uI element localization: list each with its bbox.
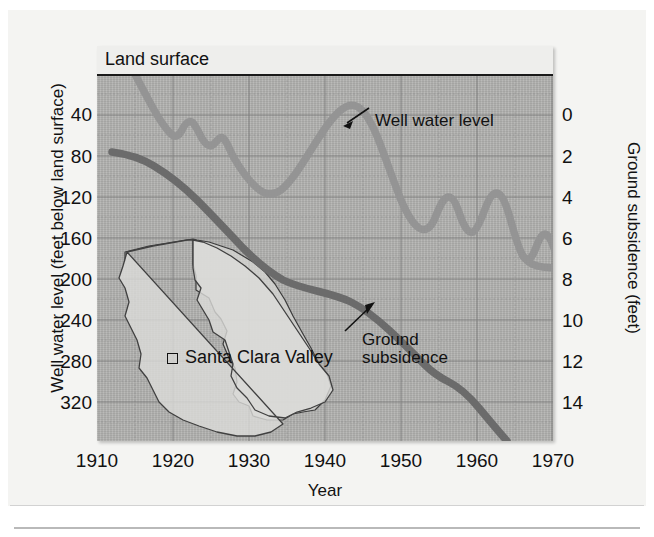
- y-axis-right-title: Ground subsidence (feet): [623, 28, 643, 448]
- land-surface-label: Land surface: [105, 49, 209, 70]
- series-well-water-level: [123, 76, 553, 259]
- figure-container: Well water level (feet below land surfac…: [0, 0, 654, 537]
- y-tick-left-1: 80: [71, 146, 92, 168]
- plot-area: Land surface: [97, 46, 553, 441]
- y-tick-left-2: 120: [60, 187, 92, 209]
- y-tick-right-3: 6: [562, 228, 573, 250]
- x-tick-6: 1970: [532, 450, 574, 472]
- santa-clara-valley-marker-icon: [167, 353, 178, 364]
- y-tick-right-4: 8: [562, 269, 573, 291]
- figure-divider-upper: [10, 505, 644, 506]
- y-tick-left-7: 320: [60, 392, 92, 414]
- x-tick-0: 1910: [76, 450, 118, 472]
- y-tick-right-2: 4: [562, 187, 573, 209]
- chart-svg: [97, 76, 553, 441]
- santa-clara-valley-label: Santa Clara Valley: [185, 347, 333, 368]
- y-tick-left-4: 200: [60, 269, 92, 291]
- x-tick-4: 1950: [380, 450, 422, 472]
- y-tick-left-6: 280: [60, 351, 92, 373]
- figure-divider-lower: [14, 527, 640, 529]
- x-tick-3: 1940: [304, 450, 346, 472]
- x-tick-2: 1930: [228, 450, 270, 472]
- y-tick-right-1: 2: [562, 146, 573, 168]
- y-tick-left-5: 240: [60, 310, 92, 332]
- annotation-ground-subsidence: Ground subsidence: [362, 331, 448, 368]
- x-axis-ticks: 1910 1920 1930 1940 1950 1960 1970: [0, 450, 654, 480]
- y-tick-right-6: 12: [562, 351, 583, 373]
- plot-canvas: Well water level Ground subsidence Santa…: [97, 76, 553, 441]
- annotation-well-water-level: Well water level: [375, 112, 494, 130]
- x-tick-1: 1920: [152, 450, 194, 472]
- y-tick-right-5: 10: [562, 310, 583, 332]
- y-tick-right-7: 14: [562, 392, 583, 414]
- y-tick-left-3: 160: [60, 228, 92, 250]
- california-outline: [119, 240, 333, 436]
- y-tick-right-0: 0: [562, 104, 573, 126]
- y-tick-left-0: 40: [71, 104, 92, 126]
- x-axis-title: Year: [97, 481, 553, 501]
- x-tick-5: 1960: [456, 450, 498, 472]
